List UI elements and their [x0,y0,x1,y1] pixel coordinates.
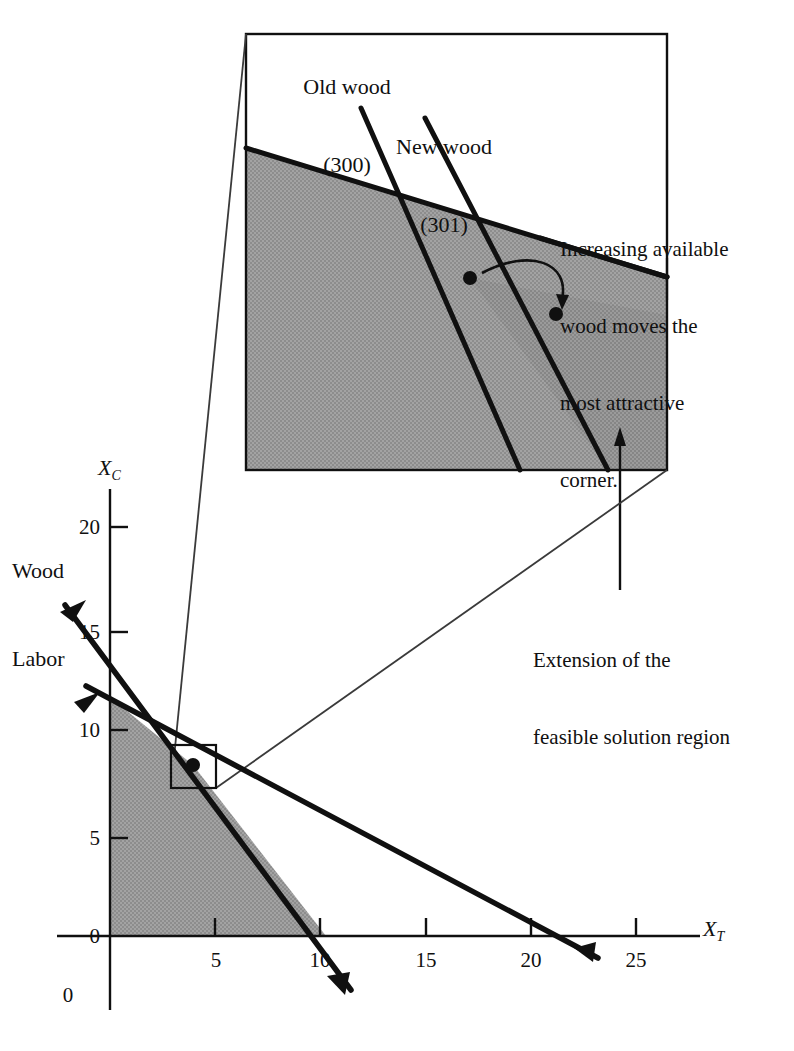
wood-arrow-head-lower [327,972,350,995]
x-axis-origin-label: 0 [48,983,88,1008]
main-optimal-corner-dot [186,758,200,772]
y-axis-name: XC [98,455,121,485]
y-axis-name-sub: C [111,468,120,483]
extension-note-line2: feasible solution region [533,725,794,751]
x-axis-name-sub: T [716,929,724,944]
extension-note-line1: Extension of the [533,648,794,674]
x-tick-label-10: 10 [300,948,340,973]
new-wood-label: New wood (301) [364,82,524,290]
new-wood-label-line2: (301) [364,212,524,238]
y-tick-label-15: 15 [52,620,100,645]
labor-constraint-label: Labor [12,646,65,672]
increasing-wood-note-line1: Increasing available [560,237,790,263]
y-tick-label-0: 0 [52,924,100,949]
new-wood-label-line1: New wood [364,134,524,160]
labor-arrow-head [74,692,100,713]
x-tick-label-5: 5 [196,948,236,973]
wood-constraint-label: Wood [12,558,64,584]
increasing-wood-note: Increasing available wood moves the most… [560,186,790,545]
x-axis-name: XT [703,916,724,946]
y-tick-label-10: 10 [52,718,100,743]
callout-line-left [171,34,246,788]
figure-container: Old wood (300) New wood (301) Increasing… [0,0,794,1051]
x-tick-label-25: 25 [616,948,656,973]
x-tick-label-15: 15 [406,948,446,973]
x-tick-label-20: 20 [511,948,551,973]
y-tick-label-20: 20 [52,515,100,540]
increasing-wood-note-line3: most attractive [560,391,790,417]
y-tick-label-5: 5 [52,826,100,851]
increasing-wood-note-line2: wood moves the [560,314,790,340]
y-axis-name-main: X [98,455,111,480]
increasing-wood-note-line4: corner. [560,468,790,494]
x-axis-name-main: X [703,916,716,941]
extension-note: Extension of the feasible solution regio… [533,597,794,802]
